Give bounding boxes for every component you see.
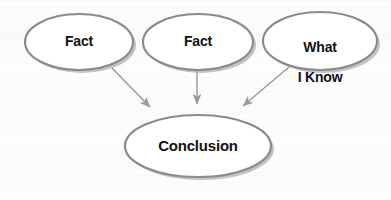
diagram-svg <box>0 0 391 200</box>
node-shapes <box>25 12 377 177</box>
node-fact-1[interactable] <box>25 14 133 70</box>
node-fact-2[interactable] <box>143 14 253 70</box>
arrow-fact-1-to-conclusion <box>112 68 150 107</box>
connector-arrows <box>112 67 289 107</box>
diagram-canvas: Fact Fact What I Know Conclusion <box>0 0 391 200</box>
arrow-what-i-know-to-conclusion <box>243 67 289 106</box>
node-what-i-know[interactable] <box>263 12 377 70</box>
node-conclusion[interactable] <box>125 115 271 177</box>
